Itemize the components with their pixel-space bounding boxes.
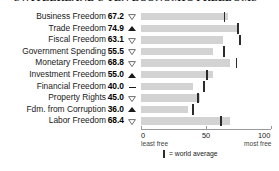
row-value: 45.0 — [103, 92, 124, 104]
trend-down-icon — [128, 11, 138, 23]
freedom-row: Trade Freedom74.9 — [0, 23, 279, 35]
value-bar — [141, 106, 188, 113]
row-plot — [141, 81, 271, 93]
row-label: Labor Freedom — [49, 115, 106, 127]
chart-title: SWITZERLAND'S TEN ECONOMIC FREEDOMS — [14, 0, 272, 4]
row-plot — [141, 115, 271, 127]
freedom-row: Fiscal Freedom63.1 — [0, 34, 279, 46]
row-label: Monetary Freedom — [35, 57, 106, 69]
row-value: 67.2 — [103, 11, 124, 23]
row-value: 68.4 — [103, 115, 124, 127]
world-average-mark — [237, 23, 239, 33]
axis-tick — [271, 126, 272, 129]
value-bar — [141, 117, 230, 124]
world-average-mark — [203, 81, 205, 91]
freedom-row: Business Freedom67.2 — [0, 11, 279, 23]
world-average-mark — [192, 104, 194, 114]
row-plot — [141, 92, 271, 104]
row-plot — [141, 57, 271, 69]
axis-sublabel: most free — [244, 140, 271, 147]
row-label: Government Spending — [22, 46, 106, 58]
trend-down-icon — [128, 115, 138, 127]
value-bar — [141, 71, 213, 78]
trend-down-icon — [128, 57, 138, 69]
world-average-mark — [224, 12, 226, 22]
row-label: Fdm. from Corruption — [26, 104, 106, 116]
freedom-row: Financial Freedom40.0 — [0, 81, 279, 93]
axis-tick-label: 50 — [202, 131, 210, 140]
trend-up-icon — [128, 69, 138, 81]
row-plot — [141, 34, 271, 46]
freedom-row: Monetary Freedom68.8 — [0, 57, 279, 69]
world-average-mark — [239, 35, 241, 45]
legend-label: = world average — [169, 149, 218, 158]
row-plot — [141, 46, 271, 58]
row-value: 55.0 — [103, 69, 124, 81]
row-value: 36.0 — [103, 104, 124, 116]
world-average-mark — [223, 46, 225, 56]
row-value: 55.5 — [103, 46, 124, 58]
row-value: 40.0 — [103, 81, 124, 93]
trend-flat-icon — [128, 81, 138, 93]
row-value: 68.8 — [103, 57, 124, 69]
row-plot — [141, 69, 271, 81]
axis-tick — [206, 126, 207, 129]
world-average-mark — [236, 58, 238, 68]
row-label: Trade Freedom — [49, 23, 106, 35]
freedom-row: Government Spending55.5 — [0, 46, 279, 58]
value-bar — [141, 94, 200, 101]
freedom-row: Labor Freedom68.4 — [0, 115, 279, 127]
row-plot — [141, 23, 271, 35]
row-value: 74.9 — [103, 23, 124, 35]
row-label: Investment Freedom — [29, 69, 106, 81]
value-bar — [141, 59, 230, 66]
value-bar — [141, 13, 228, 20]
axis-sublabel: least free — [141, 140, 168, 147]
economic-freedoms-chart: SWITZERLAND'S TEN ECONOMIC FREEDOMS Busi… — [0, 0, 279, 171]
freedom-row: Investment Freedom55.0 — [0, 69, 279, 81]
row-label: Fiscal Freedom — [48, 34, 106, 46]
row-label: Financial Freedom — [37, 81, 106, 93]
world-average-tick-icon — [163, 150, 165, 158]
value-bar — [141, 83, 193, 90]
world-average-mark — [206, 70, 208, 80]
value-bar — [141, 25, 238, 32]
trend-down-icon — [128, 34, 138, 46]
value-bar — [141, 48, 213, 55]
row-plot — [141, 104, 271, 116]
row-value: 63.1 — [103, 34, 124, 46]
freedom-row: Fdm. from Corruption36.0 — [0, 104, 279, 116]
axis-tick — [141, 126, 142, 129]
trend-down-icon — [128, 92, 138, 104]
trend-up-icon — [128, 23, 138, 35]
world-average-mark — [220, 116, 222, 126]
trend-down-icon — [128, 46, 138, 58]
world-average-mark — [197, 93, 199, 103]
freedom-rows: Business Freedom67.2Trade Freedom74.9Fis… — [0, 11, 279, 127]
freedom-row: Property Rights45.0 — [0, 92, 279, 104]
row-plot — [141, 11, 271, 23]
row-label: Property Rights — [48, 92, 106, 104]
value-bar — [141, 36, 223, 43]
trend-up-icon — [128, 104, 138, 116]
row-label: Business Freedom — [36, 11, 106, 23]
